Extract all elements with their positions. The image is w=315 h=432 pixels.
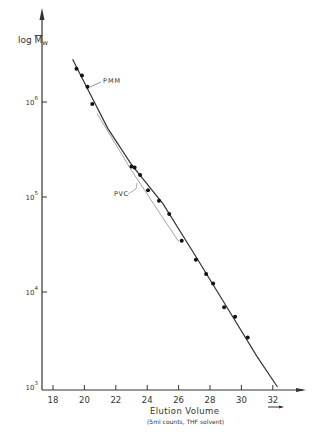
data-point: [204, 272, 208, 276]
data-point: [90, 102, 94, 106]
pvc-leader-line: [128, 183, 137, 194]
data-point: [80, 73, 84, 77]
data-point: [133, 166, 137, 170]
labels: log Mw Elution Volume (5ml counts, THF s…: [18, 35, 224, 425]
x-direction-arrow-icon: [279, 406, 284, 409]
data-point: [86, 85, 90, 89]
data-point: [233, 315, 237, 319]
chart: 1820222426283032103104105106 log Mw Elut…: [0, 0, 315, 432]
data-point: [157, 199, 161, 203]
y-axis-label-sub: w: [42, 39, 48, 47]
data-point: [211, 282, 215, 286]
x-tick-label: 28: [205, 395, 216, 405]
pvc-line: [97, 113, 179, 241]
x-axis-arrow-icon: [296, 388, 306, 392]
data-point: [138, 173, 142, 177]
x-tick-label: 22: [110, 395, 121, 405]
y-tick-label: 105: [26, 190, 39, 202]
pvc-annotation: PVC: [114, 190, 129, 198]
data-point: [180, 239, 184, 243]
pmm-annotation: PMM: [103, 77, 121, 85]
x-tick-label: 32: [267, 395, 278, 405]
data-point: [75, 67, 79, 71]
data-point: [194, 258, 198, 262]
y-tick-label: 106: [26, 95, 39, 107]
y-axis-arrow-icon: [40, 8, 45, 20]
y-axis-label: log Mw: [18, 35, 48, 47]
x-tick-label: 20: [79, 395, 90, 405]
y-tick-label: 104: [26, 285, 39, 297]
x-tick-label: 18: [48, 395, 59, 405]
y-tick-label: 103: [26, 380, 39, 392]
data-point: [246, 336, 250, 340]
x-axis-label: Elution Volume: [150, 406, 219, 416]
y-axis-label-base: log: [18, 35, 35, 45]
y-axis-label-var: M: [35, 35, 43, 45]
x-tick-label: 26: [173, 395, 184, 405]
x-tick-label: 30: [236, 395, 247, 405]
data-point: [222, 305, 226, 309]
x-axis-sublabel: (5ml counts, THF solvent): [147, 418, 224, 425]
data-point: [146, 188, 150, 192]
x-tick-label: 24: [142, 395, 153, 405]
pmm-leader-line: [90, 82, 101, 87]
data-point: [167, 212, 171, 216]
